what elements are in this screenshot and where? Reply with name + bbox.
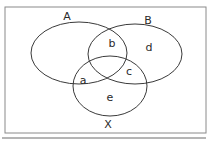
set-x-label: X bbox=[104, 118, 112, 131]
region-b-label: b bbox=[109, 37, 116, 50]
region-e-label: e bbox=[107, 91, 114, 104]
region-a-label: a bbox=[80, 74, 87, 87]
set-b-ellipse bbox=[88, 24, 182, 84]
region-d-label: d bbox=[146, 41, 153, 54]
region-c-label: c bbox=[126, 65, 132, 78]
universal-set-frame bbox=[5, 7, 206, 133]
set-a-label: A bbox=[63, 10, 71, 23]
venn-diagram: ABXbdcae bbox=[0, 0, 219, 142]
set-b-label: B bbox=[144, 14, 152, 27]
